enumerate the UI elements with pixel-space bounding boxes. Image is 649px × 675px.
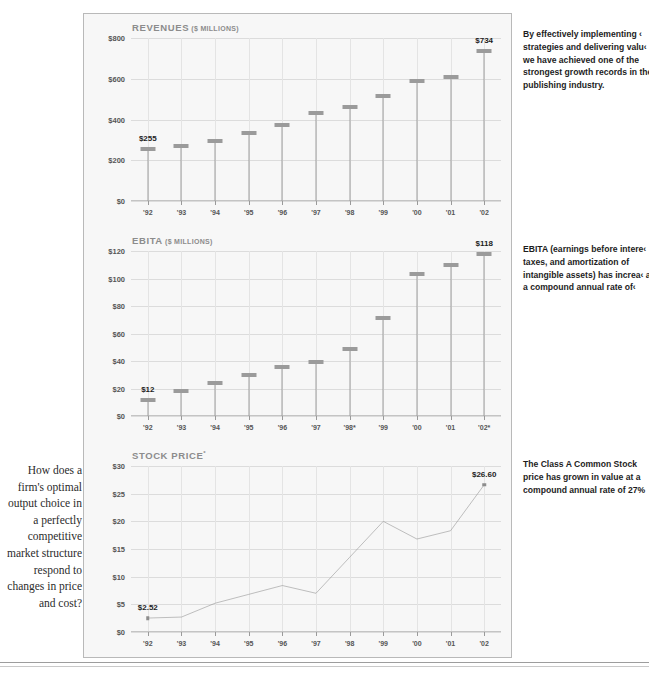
y-axis-tick-label: $0 [117,412,125,421]
x-axis-tick-label: '95 [244,209,253,216]
x-axis-tick-label: '92 [143,640,152,647]
y-axis-tick-label: $30 [112,462,125,471]
x-axis-tick [484,416,485,420]
data-stem [450,265,451,416]
x-axis-tick-label: '97 [311,640,320,647]
y-axis-tick-label: $100 [108,274,125,283]
y-axis-tick-label: $10 [112,572,125,581]
x-axis-tick [484,201,485,205]
x-axis-tick-label: '92 [143,209,152,216]
x-axis-tick [215,416,216,420]
chart-title-text: EBITA [132,235,163,246]
data-point-label: $118 [475,239,492,248]
x-axis-tick [181,201,182,205]
x-axis-tick [215,201,216,205]
x-axis-tick [282,632,283,636]
y-axis-tick-label: $80 [112,302,125,311]
x-axis-tick [249,201,250,205]
x-axis-tick [181,416,182,420]
x-axis-tick-label: '00 [412,209,421,216]
page-rule-bottom [0,666,649,667]
x-axis-tick [215,632,216,636]
x-axis-tick-label: '96 [278,424,287,431]
data-point-label: $734 [475,36,493,45]
x-axis-tick [383,201,384,205]
x-axis-tick [282,201,283,205]
data-marker [174,144,189,148]
chart-title: EBITA ($ MILLIONS) [132,235,213,246]
data-marker [208,381,223,385]
data-stem [181,391,182,416]
data-stem [416,274,417,416]
x-axis-tick-label: '00 [412,424,421,431]
chart-title: STOCK PRICE* [132,450,206,461]
page-root: How does a firm's optimal output choice … [0,0,649,675]
x-axis-tick [316,632,317,636]
data-marker [443,75,458,79]
data-stem [484,51,485,201]
x-axis-tick-label: '01 [446,209,455,216]
charts-panel: REVENUES ($ MILLIONS)$0$200$400$600$800'… [83,13,512,658]
data-stem [450,77,451,201]
data-stem [316,113,317,201]
x-axis-tick [417,201,418,205]
x-axis-tick-label: '93 [177,640,186,647]
data-stem [383,318,384,416]
data-point-label: $2.52 [138,603,158,612]
data-marker [342,105,357,109]
chart-title: REVENUES ($ MILLIONS) [132,22,239,33]
data-marker [309,360,324,364]
x-axis-tick-label: '93 [177,424,186,431]
x-axis-tick-label: '93 [177,209,186,216]
chart-stock-price: STOCK PRICE*$0$5$10$15$20$25$30'92'93'94… [84,442,513,658]
x-axis-tick-label: '94 [210,640,219,647]
x-axis-tick [417,416,418,420]
data-stem [215,141,216,201]
chart-unit-label: ($ MILLIONS) [189,25,239,32]
x-axis-tick-label: '94 [210,209,219,216]
x-axis-tick-label: '02 [479,640,488,647]
data-stem [147,149,148,201]
x-axis-tick-label: '98* [344,424,356,431]
x-axis-tick-label: '95 [244,424,253,431]
x-axis-tick [451,632,452,636]
margin-question: How does a firm's optimal output choice … [0,462,86,611]
y-axis-tick-label: $60 [112,329,125,338]
x-axis-tick [282,416,283,420]
data-marker [140,147,155,151]
data-marker [443,263,458,267]
data-point-label: $255 [139,134,157,143]
y-axis-tick-label: $200 [108,156,125,165]
chart-ebita: EBITA ($ MILLIONS)$0$20$40$60$80$100$120… [84,227,513,442]
data-marker [309,111,324,115]
data-stem [349,107,350,201]
x-axis-tick-label: '98 [345,209,354,216]
data-stem [181,146,182,201]
x-axis-tick-label: '99 [379,424,388,431]
data-point [482,483,486,487]
data-marker [342,347,357,351]
x-axis-tick [148,201,149,205]
data-marker [208,139,223,143]
y-axis-tick-label: $400 [108,115,125,124]
x-axis-tick [316,416,317,420]
y-axis-tick-label: $5 [117,600,125,609]
x-axis-tick-label: '96 [278,209,287,216]
data-stem [316,362,317,416]
x-axis-tick-label: '94 [210,424,219,431]
data-marker [376,316,391,320]
x-axis-tick-label: '96 [278,640,287,647]
x-axis-tick [451,416,452,420]
data-marker [477,252,492,256]
x-axis-tick [451,201,452,205]
data-marker [241,131,256,135]
data-stem [248,375,249,416]
x-axis-tick [148,632,149,636]
y-axis-tick-label: $40 [112,357,125,366]
data-marker [409,79,424,83]
note-stock-price: The Class A Common Stock price has grown… [523,458,649,496]
x-axis-tick [484,632,485,636]
data-marker [275,123,290,127]
data-stem [349,349,350,416]
data-stem [383,96,384,201]
